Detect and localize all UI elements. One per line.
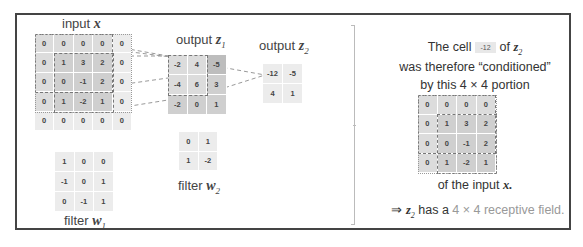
portion-cell: -2 [457,154,477,174]
w1-cell: 1 [94,172,114,192]
input-x-cell: 0 [93,34,112,53]
w1-cell: 0 [94,152,114,172]
z1-cell: 6 [188,75,208,95]
w1-cell: 0 [75,172,95,192]
portion-cell: 1 [438,154,458,174]
input-x-cell: 1 [93,92,112,111]
w2-cell: -2 [199,152,219,172]
input-x-cell: -2 [74,92,93,111]
input-portion-grid: 0000013200-1201-21 [418,95,496,173]
portion-cell: 0 [418,95,438,115]
z1-cell: 3 [207,75,227,95]
input-x-cell: 0 [35,34,54,53]
z2-cell: 1 [283,84,303,104]
input-x-cell: 1 [54,92,73,111]
z1-cell: 1 [207,95,227,115]
z1-cell: 0 [188,95,208,115]
z1-cell: -2 [168,95,188,115]
w1-cell: 1 [55,152,75,172]
z1-cell: 4 [188,55,208,75]
input-x-cell: 0 [74,34,93,53]
input-x-cell: 0 [113,73,132,92]
portion-cell: 0 [418,154,438,174]
w2-cell: 1 [179,152,199,172]
portion-cell: 0 [477,95,497,115]
output-z2-label: output z2 [259,38,309,56]
portion-cell: 0 [438,134,458,154]
input-x-cell: 0 [35,73,54,92]
input-x-cell: 2 [93,73,112,92]
w1-cell: -1 [55,172,75,192]
portion-cell: 0 [457,95,477,115]
input-x-cell: -1 [74,73,93,92]
cell-chip: -12 [475,42,495,53]
input-x-grid: 000000132000-12001-21000000 [35,34,132,131]
z2-cell: -12 [263,64,283,84]
input-x-label: input x [62,16,101,32]
filter-w2-label: filter w2 [178,178,220,196]
input-x-cell: 0 [35,53,54,72]
explanation-line-4: of the input x. [400,178,550,193]
portion-cell: 1 [438,115,458,135]
input-x-cell: 0 [113,112,132,131]
input-x-cell: 2 [93,53,112,72]
w2-cell: 1 [199,132,219,152]
z2-cell: 4 [263,84,283,104]
filter-w2-grid: 011-2 [179,132,218,171]
output-z2-grid: -12-541 [263,64,303,104]
z1-cell: -4 [168,75,188,95]
input-x-cell: 0 [74,112,93,131]
portion-cell: 3 [457,115,477,135]
input-x-cell: 0 [35,92,54,111]
w1-cell: -1 [75,192,95,212]
input-x-cell: 0 [93,112,112,131]
portion-cell: 1 [477,154,497,174]
filter-w1-label: filter w1 [64,213,106,231]
z1-cell: -5 [207,55,227,75]
portion-cell: 0 [418,134,438,154]
input-x-cell: 0 [54,112,73,131]
portion-cell: 2 [477,134,497,154]
w1-cell: 1 [94,192,114,212]
output-z1-grid: -24-5-463-201 [168,55,227,115]
w1-cell: 0 [75,152,95,172]
portion-cell: 2 [477,115,497,135]
input-x-cell: 0 [54,73,73,92]
input-x-cell: 0 [113,34,132,53]
explanation-line-5: ⇒ z2 has a 4 × 4 receptive field. [378,202,578,220]
portion-cell: -1 [457,134,477,154]
input-x-cell: 0 [113,92,132,111]
filter-w1-grid: 100-1010-11 [55,152,114,212]
explanation-line-3: by this 4 × 4 portion [385,78,565,92]
input-x-cell: 0 [113,53,132,72]
w1-cell: 0 [55,192,75,212]
bracket-tick [353,125,356,126]
w2-cell: 0 [179,132,199,152]
explanation-line-2: was therefore “conditioned” [385,60,565,74]
z2-cell: -5 [283,64,303,84]
input-x-cell: 3 [74,53,93,72]
input-x-cell: 1 [54,53,73,72]
input-x-cell: 0 [54,34,73,53]
input-x-cell: 0 [35,112,54,131]
explanation-line-1: The cell-12of z2 [400,40,550,57]
z1-cell: -2 [168,55,188,75]
portion-cell: 0 [438,95,458,115]
output-z1-label: output z1 [176,32,226,50]
portion-cell: 0 [418,115,438,135]
